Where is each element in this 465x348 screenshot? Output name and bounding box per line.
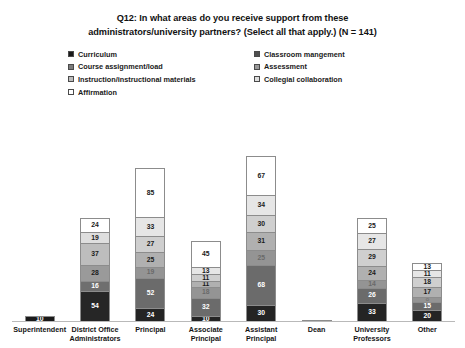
bar-segment[interactable]: 18	[412, 277, 442, 287]
bar-column: 10	[12, 104, 67, 322]
bar-segment[interactable]: 25	[246, 250, 276, 265]
bar-segment[interactable]: 14	[357, 280, 387, 288]
bar-column: 1311181781520	[400, 104, 455, 322]
legend-item-collegial-collaboration[interactable]: Collegial collaboration	[254, 73, 465, 86]
bar-segment[interactable]: 33	[135, 217, 165, 236]
chart-title-line-2: administrators/university partners? (Sel…	[18, 26, 447, 40]
legend-item-label: Affirmation	[78, 88, 117, 97]
legend-item-course-assignment-load[interactable]: Course assignment/load	[68, 61, 254, 74]
stacked-bar[interactable]: 241937281654	[80, 218, 110, 322]
legend-swatch-icon	[68, 51, 74, 57]
bar-segment[interactable]: 31	[246, 232, 276, 250]
x-axis-label: District Office Administrators	[67, 325, 122, 343]
bar-segment[interactable]: 27	[135, 236, 165, 252]
chart-legend: CurriculumClassroom mangementCourse assi…	[0, 48, 465, 98]
bar-segment[interactable]: 26	[357, 288, 387, 303]
bar-segment[interactable]: 24	[357, 266, 387, 280]
bar-segment[interactable]: 17	[412, 287, 442, 297]
chart-title: Q12: In what areas do you receive suppor…	[18, 12, 447, 39]
bar-segment[interactable]: 15	[412, 302, 442, 311]
bar-segment[interactable]: 85	[135, 168, 165, 218]
plot-area: 1024193728165485332725195224451311111832…	[12, 104, 455, 348]
bar-segment[interactable]: 13	[191, 267, 221, 275]
legend-swatch-icon	[68, 76, 74, 82]
bar-segment[interactable]: 19	[80, 232, 110, 243]
x-axis-label: Associate Principal	[178, 325, 233, 343]
bar-segment[interactable]: 16	[80, 281, 110, 290]
bar-segment[interactable]: 25	[135, 252, 165, 267]
bar-segment[interactable]: 30	[246, 215, 276, 232]
x-axis-label: Principal	[123, 325, 178, 334]
x-axis-label: Dean	[289, 325, 344, 334]
x-axis-label: Assistant Principal	[234, 325, 289, 343]
legend-swatch-icon	[68, 64, 74, 70]
x-axis-label: University Professors	[344, 325, 399, 343]
legend-item-label: Curriculum	[78, 50, 117, 59]
legend-swatch-icon	[254, 76, 260, 82]
bar-segment[interactable]: 13	[412, 263, 442, 271]
stacked-bar-chart: Q12: In what areas do you receive suppor…	[0, 0, 465, 348]
stacked-bar[interactable]: 67343031256830	[246, 156, 276, 322]
bar-segment[interactable]: 67	[246, 156, 276, 195]
bar-segment[interactable]: 24	[80, 218, 110, 232]
legend-swatch-icon	[254, 51, 260, 57]
stacked-bar[interactable]: 45131111183210	[191, 241, 221, 322]
legend-swatch-icon	[68, 89, 74, 95]
bar-segment[interactable]: 52	[135, 278, 165, 308]
legend-item-label: Classroom mangement	[264, 50, 345, 59]
legend-item-classroom-mangement[interactable]: Classroom mangement	[254, 48, 465, 61]
bar-segment[interactable]: 28	[80, 265, 110, 281]
bar-column: 45131111183210	[178, 104, 233, 322]
bar-segment[interactable]: 37	[80, 243, 110, 265]
bar-segment[interactable]: 18	[191, 287, 221, 297]
bar-column	[289, 104, 344, 322]
x-axis-label: Other	[400, 325, 455, 334]
legend-item-label: Instruction/instructional materials	[78, 75, 196, 84]
legend-item-affirmation[interactable]: Affirmation	[68, 86, 254, 99]
bar-column: 67343031256830	[234, 104, 289, 322]
legend-item-assessment[interactable]: Assessment	[254, 61, 465, 74]
bar-segment[interactable]: 32	[191, 298, 221, 317]
bar-segment[interactable]: 27	[357, 233, 387, 249]
chart-title-line-1: Q12: In what areas do you receive suppor…	[18, 12, 447, 26]
bar-segment[interactable]: 33	[357, 303, 387, 322]
bar-segment[interactable]: 30	[246, 305, 276, 322]
legend-item-curriculum[interactable]: Curriculum	[68, 48, 254, 61]
bar-column: 85332725195224	[123, 104, 178, 322]
bar-segment[interactable]: 25	[357, 218, 387, 233]
bar-segment[interactable]: 19	[135, 267, 165, 278]
bar-segment[interactable]: 45	[191, 241, 221, 267]
stacked-bar[interactable]: 85332725195224	[135, 168, 165, 322]
legend-item-label: Course assignment/load	[78, 62, 163, 71]
x-axis-label: Superintendent	[12, 325, 67, 334]
stacked-bar[interactable]: 25272924142633	[357, 218, 387, 322]
legend-item-label: Assessment	[264, 62, 307, 71]
legend-swatch-icon	[254, 64, 260, 70]
bar-segment[interactable]: 24	[135, 308, 165, 322]
x-axis-category-labels: SuperintendentDistrict Office Administra…	[12, 322, 455, 348]
bar-column: 25272924142633	[344, 104, 399, 322]
legend-item-instruction-instructional-materials[interactable]: Instruction/instructional materials	[68, 73, 254, 86]
bar-segment[interactable]: 29	[357, 249, 387, 266]
legend-item-label: Collegial collaboration	[264, 75, 342, 84]
bar-column: 241937281654	[67, 104, 122, 322]
bar-segment[interactable]: 68	[246, 265, 276, 305]
bar-group: 1024193728165485332725195224451311111832…	[12, 104, 455, 322]
bar-segment[interactable]: 34	[246, 195, 276, 215]
bar-segment[interactable]: 54	[80, 291, 110, 322]
stacked-bar[interactable]: 1311181781520	[412, 263, 442, 322]
